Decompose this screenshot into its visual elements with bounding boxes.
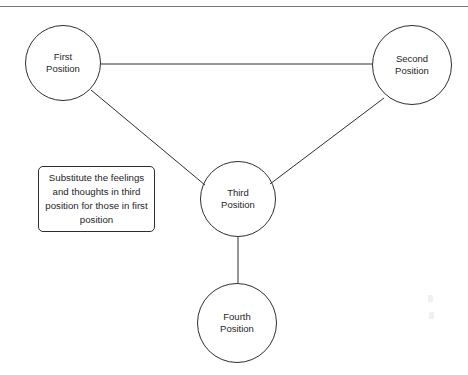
node-fourth-position-line2: Position — [220, 323, 254, 335]
node-second-position[interactable]: Second Position — [372, 25, 452, 105]
node-first-position[interactable]: First Position — [25, 25, 101, 101]
node-first-position-line1: First — [54, 51, 72, 63]
callout-substitute-note[interactable]: Substitute the feelings and thoughts in … — [38, 166, 155, 232]
node-second-position-line2: Position — [395, 65, 429, 77]
callout-substitute-note-text: Substitute the feelings and thoughts in … — [44, 171, 149, 226]
node-third-position-line2: Position — [221, 199, 255, 211]
scan-artifact-upper — [428, 295, 433, 302]
node-fourth-position[interactable]: Fourth Position — [197, 283, 277, 363]
node-third-position-line1: Third — [227, 187, 249, 199]
node-third-position[interactable]: Third Position — [200, 161, 276, 237]
node-first-position-line2: Position — [46, 63, 80, 75]
diagram-canvas: First Position Second Position Third Pos… — [0, 0, 468, 375]
scan-artifact-lower — [429, 312, 434, 319]
node-second-position-line1: Second — [396, 53, 428, 65]
node-fourth-position-line1: Fourth — [223, 311, 250, 323]
edge-second-to-third — [270, 98, 384, 184]
